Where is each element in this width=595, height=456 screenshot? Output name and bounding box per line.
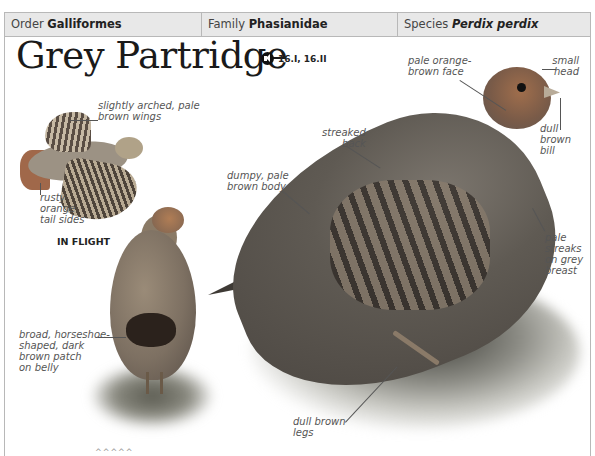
field-guide-page: Order Galliformes Family Phasianidae Spe… <box>0 0 595 456</box>
leader-line-head <box>542 69 556 70</box>
page-title: Grey Partridge <box>16 34 287 77</box>
order-cell: Order Galliformes <box>5 13 202 36</box>
in-flight-caption: IN FLIGHT <box>57 236 110 247</box>
species-value: Perdix perdix <box>452 17 538 31</box>
standing-bird-head <box>152 207 184 233</box>
leader-line-tail <box>40 183 41 195</box>
flying-bird-head <box>115 137 143 159</box>
family-label: Family <box>208 17 245 31</box>
species-label: Species <box>404 17 448 31</box>
page-border-left <box>4 12 5 456</box>
family-cell: Family Phasianidae <box>202 13 398 36</box>
label-bill: dullbrownbill <box>540 123 571 156</box>
label-belly: broad, horseshoe-shaped, darkbrown patch… <box>19 329 110 373</box>
label-tail: rustyorangetail sides <box>40 192 84 225</box>
order-label: Order <box>11 17 44 31</box>
speaker-icon[interactable] <box>261 52 274 65</box>
belly-patch <box>126 313 176 347</box>
leader-line-bill <box>560 98 561 130</box>
page-border-right <box>590 12 591 456</box>
label-body: dumpy, palebrown body <box>227 170 289 192</box>
standing-bird-leg <box>160 372 163 394</box>
label-legs: dull brownlegs <box>293 416 346 438</box>
main-bird-head <box>483 67 551 129</box>
main-bird-bill <box>544 86 560 98</box>
standing-bird-body <box>110 230 196 380</box>
label-head: smallhead <box>549 55 579 77</box>
main-bird-eye <box>517 83 526 92</box>
label-breast: palestreakson greybreast <box>545 232 583 276</box>
standing-bird-leg <box>146 372 149 394</box>
label-wings: slightly arched, palebrown wings <box>98 100 200 122</box>
label-face: pale orange-brown face <box>408 55 471 77</box>
order-value: Galliformes <box>47 17 121 31</box>
sound-reference[interactable]: 16.I, 16.II <box>261 52 327 65</box>
family-value: Phasianidae <box>249 17 328 31</box>
leader-line-belly <box>98 337 126 338</box>
footer-marks: ^^^^^ <box>95 448 134 456</box>
flying-bird-upper-wing <box>45 112 91 152</box>
leader-line-wings <box>70 120 98 121</box>
species-cell: Species Perdix perdix <box>398 13 590 36</box>
sound-track-numbers: 16.I, 16.II <box>278 54 327 64</box>
label-back: streakedback <box>322 127 366 149</box>
main-bird-flank-bars <box>330 180 490 310</box>
